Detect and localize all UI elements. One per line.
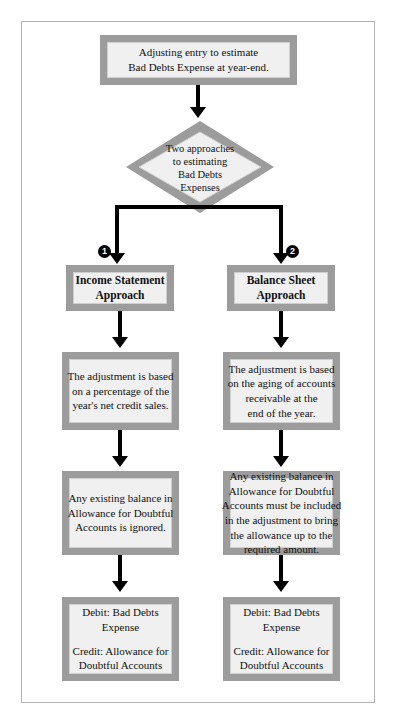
balance-sheet-entry-body: Debit: Bad Debts Expense Credit: Allowan…: [230, 604, 333, 674]
connector-right-1: [279, 311, 283, 339]
connector-right-2: [279, 430, 283, 458]
income-statement-entry-credit-line-1: Credit: Allowance for: [73, 644, 169, 659]
balance-sheet-basis-body: The adjustment is based on the aging of …: [230, 359, 333, 423]
income-statement-entry-credit: Credit: Allowance for Doubtful Accounts: [73, 644, 169, 673]
decision-line-3: Bad Debts: [178, 169, 222, 182]
income-statement-basis-line-3: year's net credit sales.: [72, 398, 168, 413]
balance-sheet-approach-line-2: Approach: [257, 288, 306, 303]
balance-sheet-existing-balance-body: Any existing balance in Allowance for Do…: [230, 478, 333, 548]
step-badge-2: 2: [286, 245, 299, 258]
balance-sheet-entry-credit-line-1: Credit: Allowance for: [234, 644, 330, 659]
income-statement-basis-line-1: The adjustment is based: [68, 369, 174, 384]
income-statement-existing-balance-node: Any existing balance in Allowance for Do…: [62, 471, 179, 555]
income-statement-entry-credit-line-2: Doubtful Accounts: [73, 658, 169, 673]
connector-branch-left-vertical: [115, 205, 119, 255]
balance-sheet-existing-balance-line-4: in the adjustment to bring: [225, 513, 338, 528]
income-statement-basis-body: The adjustment is based on a percentage …: [69, 359, 172, 423]
balance-sheet-basis-node: The adjustment is based on the aging of …: [223, 352, 340, 430]
arrowhead-right-3: [273, 581, 289, 592]
balance-sheet-entry-credit-line-2: Doubtful Accounts: [234, 658, 330, 673]
connector-branch-horizontal: [115, 205, 283, 209]
step-badge-1: 1: [98, 245, 111, 258]
flowchart-page: Adjusting entry to estimate Bad Debts Ex…: [0, 0, 397, 725]
connector-branch-right-vertical: [279, 205, 283, 255]
decision-node-body: Two approaches to estimating Bad Debts E…: [126, 121, 274, 213]
decision-line-2: to estimating: [173, 156, 228, 169]
balance-sheet-basis-line-2: on the aging of accounts: [228, 376, 336, 391]
balance-sheet-basis-line-3: receivable at the: [245, 391, 317, 406]
arrowhead-right-2: [273, 456, 289, 467]
income-statement-approach-line-2: Approach: [96, 288, 145, 303]
balance-sheet-approach-line-1: Balance Sheet: [247, 273, 316, 288]
income-statement-approach-node: Income Statement Approach: [66, 265, 174, 311]
balance-sheet-existing-balance-node: Any existing balance in Allowance for Do…: [223, 471, 340, 555]
income-statement-existing-balance-line-2: Allowance for Doubtful: [68, 506, 174, 521]
decision-line-4: Expenses: [180, 182, 220, 195]
arrowhead-left-1: [112, 337, 128, 348]
income-statement-entry-node: Debit: Bad Debts Expense Credit: Allowan…: [62, 597, 179, 681]
connector-start-to-decision: [196, 85, 200, 109]
balance-sheet-basis-line-4: end of the year.: [248, 406, 316, 421]
income-statement-approach-line-1: Income Statement: [75, 273, 164, 288]
start-node: Adjusting entry to estimate Bad Debts Ex…: [100, 35, 297, 85]
arrowhead-branch-left: [109, 253, 125, 264]
arrowhead-start-to-decision: [190, 107, 206, 118]
connector-left-3: [118, 555, 122, 583]
balance-sheet-entry-credit: Credit: Allowance for Doubtful Accounts: [234, 644, 330, 673]
start-node-line-1: Adjusting entry to estimate: [139, 45, 258, 60]
decision-line-1: Two approaches: [166, 143, 234, 156]
start-node-line-2: Bad Debts Expense at year-end.: [128, 60, 269, 75]
balance-sheet-existing-balance-line-3: Accounts must be included: [222, 498, 341, 513]
arrowhead-right-1: [273, 337, 289, 348]
connector-right-3: [279, 555, 283, 583]
income-statement-entry-body: Debit: Bad Debts Expense Credit: Allowan…: [69, 604, 172, 674]
arrowhead-left-3: [112, 581, 128, 592]
income-statement-basis-line-2: on a percentage of the: [72, 384, 169, 399]
balance-sheet-existing-balance-line-2: Allowance for Doubtful: [229, 484, 335, 499]
balance-sheet-existing-balance-line-1: Any existing balance in: [229, 469, 333, 484]
income-statement-basis-node: The adjustment is based on a percentage …: [62, 352, 179, 430]
connector-left-1: [118, 311, 122, 339]
balance-sheet-existing-balance-line-5: the allowance up to the: [230, 528, 332, 543]
arrowhead-left-2: [112, 456, 128, 467]
income-statement-existing-balance-line-3: Accounts is ignored.: [75, 520, 166, 535]
connector-left-2: [118, 430, 122, 458]
income-statement-existing-balance-line-1: Any existing balance in: [68, 491, 172, 506]
start-node-body: Adjusting entry to estimate Bad Debts Ex…: [107, 42, 290, 78]
income-statement-existing-balance-body: Any existing balance in Allowance for Do…: [69, 478, 172, 548]
balance-sheet-entry-node: Debit: Bad Debts Expense Credit: Allowan…: [223, 597, 340, 681]
balance-sheet-entry-debit: Debit: Bad Debts Expense: [236, 605, 327, 634]
income-statement-approach-body: Income Statement Approach: [73, 272, 167, 304]
income-statement-entry-debit: Debit: Bad Debts Expense: [75, 605, 166, 634]
balance-sheet-basis-line-1: The adjustment is based: [229, 362, 335, 377]
balance-sheet-approach-body: Balance Sheet Approach: [234, 272, 328, 304]
balance-sheet-approach-node: Balance Sheet Approach: [227, 265, 335, 311]
decision-node: Two approaches to estimating Bad Debts E…: [126, 121, 274, 213]
